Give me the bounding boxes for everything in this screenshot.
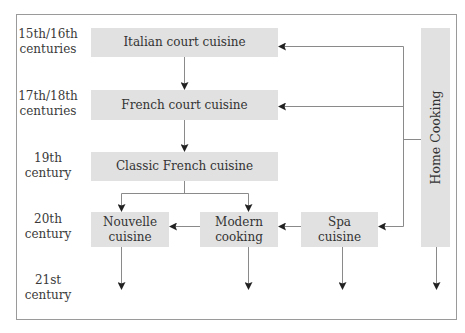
connector-lines: [0, 0, 465, 333]
